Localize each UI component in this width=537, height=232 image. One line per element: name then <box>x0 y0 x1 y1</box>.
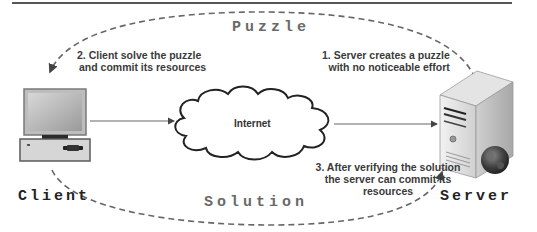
globe-icon <box>481 146 509 174</box>
desktop-computer-icon <box>20 89 90 161</box>
step-3-line-1: 3. After verifying the solution <box>300 161 476 173</box>
step-1-line-2: with no noticeable effort <box>322 61 450 73</box>
step-2-annotation: 2. Client solve the puzzle and commit it… <box>77 49 206 73</box>
puzzle-flow-label: Puzzle <box>232 19 310 36</box>
step-1-line-1: 1. Server creates a puzzle <box>322 49 450 61</box>
step-2-line-2: and commit its resources <box>77 61 206 73</box>
step-1-annotation: 1. Server creates a puzzle with no notic… <box>322 49 450 73</box>
solution-flow-label: Solution <box>204 194 308 211</box>
step-3-annotation: 3. After verifying the solution the serv… <box>300 161 476 197</box>
step-2-line-1: 2. Client solve the puzzle <box>77 49 206 61</box>
internet-node-label: Internet <box>234 118 271 129</box>
client-node-label: Client <box>18 188 90 205</box>
step-3-line-2: the server can commit its <box>300 173 476 185</box>
diagram-canvas: Puzzle Solution Client Internet Server 2… <box>0 0 537 232</box>
step-3-line-3: resources <box>300 185 476 197</box>
